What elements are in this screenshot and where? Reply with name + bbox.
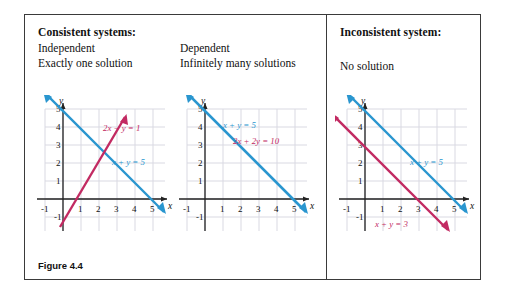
x-axis-label: x [469,201,475,211]
svg-text:2: 2 [96,204,101,214]
svg-text:3: 3 [56,140,61,150]
svg-text:3: 3 [256,204,261,214]
svg-text:4: 4 [132,204,137,214]
x-axis-arrow-icon [303,197,309,202]
panel-heading-consistent: Consistent systems: [38,26,136,38]
x-axis-label: x [309,201,315,211]
subpanel-nosolution-text: No solution [340,59,394,74]
independent-line2: Exactly one solution [38,56,133,71]
svg-text:5: 5 [292,204,297,214]
series-line-x-plus-y-3 [335,112,450,232]
svg-text:-1: -1 [196,212,204,222]
svg-text:-1: -1 [183,204,191,214]
x-axis-arrow-icon [463,197,469,202]
svg-text:5: 5 [150,204,155,214]
equation-label-2x-minus-y-1: 2x − y = 1 [103,123,140,133]
svg-text:4: 4 [274,204,279,214]
y-tick-labels: -1 1 2 3 4 5 [356,104,364,222]
chart-dependent-svg: y x -1 1 2 3 4 5 -1 1 2 3 4 5 [175,95,315,235]
figure-caption: Figure 4.4 [38,260,83,271]
svg-text:1: 1 [56,176,61,186]
svg-text:-1: -1 [356,212,364,222]
svg-text:3: 3 [416,204,421,214]
equation-label-x-plus-y-5: x + y = 5 [222,120,256,130]
svg-text:1: 1 [380,204,385,214]
panel-heading-inconsistent: Inconsistent system: [340,26,441,38]
svg-text:2: 2 [358,158,363,168]
svg-text:2: 2 [398,204,403,214]
equation-label-2x-plus-2y-10: 2x + 2y = 10 [233,136,280,146]
chart-nosolution: y x -1 1 2 3 4 5 -1 1 2 3 4 5 [335,95,480,240]
svg-text:3: 3 [114,204,119,214]
svg-text:4: 4 [358,122,363,132]
chart-independent: y x -1 1 2 3 4 5 -1 1 2 3 4 5 [33,95,173,235]
x-axis-label: x [167,201,173,211]
series-line-x-plus-y-5 [346,95,468,214]
chart-independent-svg: y x -1 1 2 3 4 5 -1 1 2 3 4 5 [33,95,173,235]
svg-text:1: 1 [198,176,203,186]
svg-text:3: 3 [198,140,203,150]
svg-text:-1: -1 [41,204,49,214]
dependent-line1: Dependent [180,41,296,56]
equation-label-x-plus-y-3: x + y = 3 [374,219,408,229]
subpanel-dependent-text: Dependent Infinitely many solutions [180,41,296,70]
x-axis-arrow-icon [161,197,167,202]
figure-container: Consistent systems: Independent Exactly … [24,14,481,280]
svg-text:1: 1 [220,204,225,214]
y-tick-labels: -1 1 2 3 4 5 [196,104,204,222]
equation-label-x-plus-y-5: x + y = 5 [111,157,145,167]
panel-inconsistent-system: Inconsistent system: No solution [327,15,482,279]
svg-text:4: 4 [434,204,439,214]
nosolution-line1: No solution [340,59,394,74]
svg-text:2: 2 [56,158,61,168]
svg-text:2: 2 [198,158,203,168]
equation-label-x-plus-y-5: x + y = 5 [409,157,443,167]
svg-text:1: 1 [78,204,83,214]
subpanel-independent-text: Independent Exactly one solution [38,41,133,70]
svg-text:-1: -1 [343,204,351,214]
series-line-coincident [185,95,308,214]
svg-text:-1: -1 [54,212,62,222]
svg-text:4: 4 [56,122,61,132]
dependent-line2: Infinitely many solutions [180,56,296,71]
svg-text:4: 4 [198,122,203,132]
chart-dependent: y x -1 1 2 3 4 5 -1 1 2 3 4 5 [175,95,315,235]
svg-text:1: 1 [358,176,363,186]
chart-nosolution-svg: y x -1 1 2 3 4 5 -1 1 2 3 4 5 [335,95,480,240]
series-line-x-plus-y-5 [43,95,166,214]
svg-text:2: 2 [238,204,243,214]
independent-line1: Independent [38,41,133,56]
y-tick-labels: -1 1 2 3 4 5 [54,104,62,222]
panel-consistent-systems: Consistent systems: Independent Exactly … [25,15,327,279]
svg-text:5: 5 [452,204,457,214]
